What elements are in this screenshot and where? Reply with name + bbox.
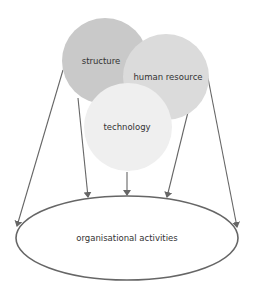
technology-label: technology (103, 122, 150, 132)
arrow-structure-outer (17, 70, 63, 226)
organisational-activities-label: organisational activities (76, 233, 178, 243)
human-resource-label: human resource (133, 72, 202, 82)
structure-label: structure (82, 56, 121, 66)
arrow-human-resource-outer (208, 78, 237, 227)
diagram-canvas: structure human resource technology orga… (0, 0, 253, 300)
